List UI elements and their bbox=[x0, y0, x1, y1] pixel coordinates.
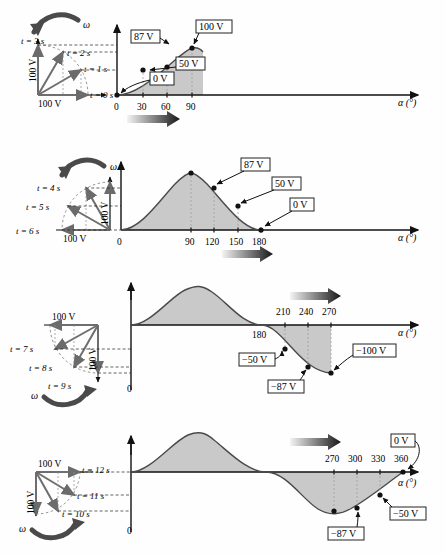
point-210deg bbox=[282, 346, 287, 351]
callout-50v-label: 50 V bbox=[275, 178, 295, 189]
point-30deg bbox=[140, 67, 145, 72]
callout-m100v-label: −100 V bbox=[356, 345, 387, 356]
callout-87v-label: 87 V bbox=[134, 31, 154, 42]
origin-label: 0 bbox=[127, 384, 132, 394]
phasor-time-t12: t = 12 s bbox=[82, 465, 110, 475]
callout-50v-label: 50 V bbox=[179, 58, 199, 69]
phasor-time-t1: t = 1 s bbox=[84, 64, 108, 74]
phasor-y-magnitude: 100 V bbox=[100, 202, 110, 225]
tick-label-30: 30 bbox=[137, 102, 147, 112]
point-90deg bbox=[188, 170, 193, 175]
callout-m50v-label: −50 V bbox=[393, 508, 419, 519]
tick-label-0: 0 bbox=[114, 102, 119, 112]
point-360deg bbox=[400, 469, 405, 474]
tick-label-240: 240 bbox=[299, 307, 314, 317]
phasor-time-t11: t = 11 s bbox=[77, 491, 105, 501]
phasor-time-t9: t = 9 s bbox=[48, 381, 72, 391]
point-0deg bbox=[114, 92, 119, 97]
callout-0v-label: 0 V bbox=[153, 73, 168, 84]
tick-label-180: 180 bbox=[252, 237, 267, 247]
phasor-time-t7: t = 7 s bbox=[10, 344, 34, 354]
x-axis-label: α (°) bbox=[398, 232, 417, 244]
callout-87v-label: 87 V bbox=[244, 159, 264, 170]
phasor-x-magnitude: 100 V bbox=[52, 312, 75, 322]
figure-root: ω 100 V 100 V t = 3 s t = 2 s t = 1 s t … bbox=[0, 0, 446, 554]
figure-svg: ω 100 V 100 V t = 3 s t = 2 s t = 1 s t … bbox=[0, 0, 446, 554]
callout-m87v-label: −87 V bbox=[331, 528, 357, 539]
tick-label-360: 360 bbox=[394, 454, 409, 464]
phasor-time-t6: t = 6 s bbox=[16, 226, 40, 236]
phasor-time-t10: t = 10 s bbox=[62, 509, 90, 519]
point-300deg bbox=[331, 508, 336, 513]
tick-label-270: 270 bbox=[322, 307, 337, 317]
callout-m50v-label: −50 V bbox=[242, 354, 268, 365]
point-180deg bbox=[258, 227, 263, 232]
point-270deg bbox=[328, 370, 333, 375]
x-axis-label: α (°) bbox=[398, 477, 417, 489]
callout-100v-label: 100 V bbox=[199, 21, 224, 32]
phasor-x-magnitude: 100 V bbox=[63, 234, 86, 244]
callout-m87v-label: −87 V bbox=[271, 381, 297, 392]
tick-label-270: 270 bbox=[325, 454, 340, 464]
phasor-time-t3: t = 3 s bbox=[21, 36, 45, 46]
x-axis-label: α (°) bbox=[398, 97, 417, 109]
callout-0v-label: 0 V bbox=[293, 199, 308, 210]
phasor-time-t5: t = 5 s bbox=[26, 202, 50, 212]
phasor-y-magnitude: 100 V bbox=[88, 348, 98, 371]
tick-label-180: 180 bbox=[252, 330, 267, 340]
origin-label: 0 bbox=[117, 237, 122, 247]
point-120deg bbox=[211, 185, 216, 190]
omega-label: ω bbox=[83, 19, 90, 30]
point-60deg bbox=[164, 64, 169, 69]
omega-label: ω bbox=[19, 523, 26, 534]
tick-label-90: 90 bbox=[185, 237, 195, 247]
omega-label: ω bbox=[31, 390, 38, 401]
point-150deg bbox=[235, 203, 240, 208]
omega-label: ω bbox=[110, 161, 117, 172]
x-axis-label: α (°) bbox=[398, 327, 417, 339]
phasor-time-t2: t = 2 s bbox=[67, 48, 91, 58]
phasor-time-t0: t = 0 s bbox=[90, 90, 114, 100]
tick-label-150: 150 bbox=[229, 237, 244, 247]
tick-label-330: 330 bbox=[371, 454, 386, 464]
phasor-x-magnitude: 100 V bbox=[38, 99, 61, 109]
point-300deg-b bbox=[354, 505, 359, 510]
point-240deg bbox=[305, 364, 310, 369]
callout-0v-label: 0 V bbox=[394, 435, 409, 446]
tick-label-60: 60 bbox=[161, 102, 171, 112]
point-330deg bbox=[377, 492, 382, 497]
tick-label-90: 90 bbox=[186, 102, 196, 112]
tick-label-210: 210 bbox=[276, 307, 291, 317]
tick-label-300: 300 bbox=[348, 454, 363, 464]
origin-label: 0 bbox=[127, 526, 132, 536]
phasor-x-magnitude: 100 V bbox=[38, 459, 61, 469]
tick-label-120: 120 bbox=[205, 237, 220, 247]
phasor-time-t4: t = 4 s bbox=[37, 183, 61, 193]
point-90deg bbox=[189, 45, 194, 50]
phasor-y-magnitude: 100 V bbox=[26, 491, 36, 514]
phasor-time-t8: t = 8 s bbox=[29, 363, 53, 373]
phasor-y-magnitude: 100 V bbox=[28, 59, 38, 82]
